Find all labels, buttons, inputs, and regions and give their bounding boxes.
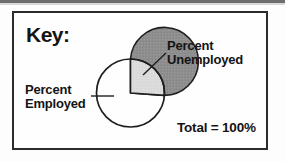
page-title: Key:: [26, 24, 70, 47]
pie-label-employed: Percent Employed: [25, 83, 86, 111]
pie-total-note: Total = 100%: [177, 121, 256, 136]
pie-label-unemployed-line1: Percent: [167, 39, 243, 53]
pie-label-unemployed: Percent Unemployed: [167, 39, 243, 67]
figure-canvas: Key: Percent Unemployed Percent Employed…: [0, 0, 285, 162]
pie-label-employed-line1: Percent: [25, 83, 86, 97]
pie-label-employed-line2: Employed: [25, 97, 86, 111]
pie-label-unemployed-line2: Unemployed: [167, 53, 243, 67]
